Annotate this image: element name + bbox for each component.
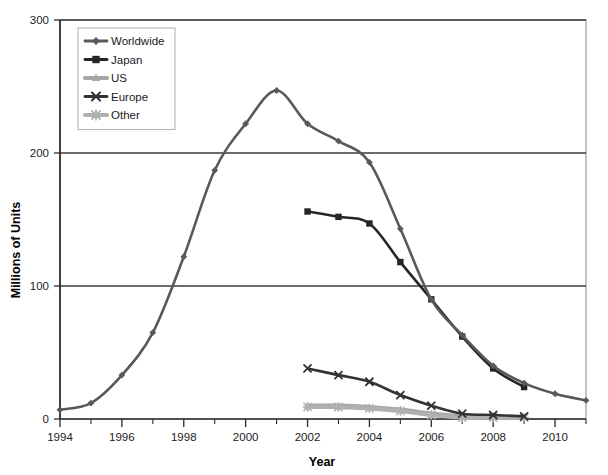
x-axis-tick-label: 2006 xyxy=(418,431,444,443)
asterisk-marker xyxy=(427,411,435,419)
asterisk-marker xyxy=(396,407,404,415)
x-axis-title: Year xyxy=(309,455,336,469)
x-axis-tick-label: 1994 xyxy=(47,431,73,443)
legend-item-label: Europe xyxy=(111,91,148,103)
legend-item-label: Worldwide xyxy=(111,35,164,47)
x-axis-tick-label: 2008 xyxy=(480,431,506,443)
square-marker xyxy=(335,214,341,220)
asterisk-marker xyxy=(91,110,101,120)
x-axis-tick-label: 2004 xyxy=(357,431,383,443)
y-axis-tick-label: 100 xyxy=(30,280,49,292)
chart-figure: 0100200300 19941996199820002002200420062… xyxy=(0,0,608,475)
x-axis-tick-label: 2002 xyxy=(295,431,321,443)
asterisk-marker xyxy=(520,414,528,422)
x-axis-tick-labels: 199419961998200020022004200620082010 xyxy=(47,431,568,443)
square-marker xyxy=(304,208,310,214)
x-axis-tick-label: 2010 xyxy=(542,431,568,443)
x-axis-tick-label: 2000 xyxy=(233,431,259,443)
legend-item-label: Japan xyxy=(111,54,142,66)
asterisk-marker xyxy=(303,403,311,411)
x-axis-tick-label: 1996 xyxy=(109,431,135,443)
y-axis-tick-label: 300 xyxy=(30,14,49,26)
square-marker xyxy=(397,259,403,265)
y-axis-tick-label: 200 xyxy=(30,147,49,159)
y-axis-title: Millions of Units xyxy=(9,202,23,299)
square-marker xyxy=(366,220,372,226)
line-chart-canvas: 0100200300 19941996199820002002200420062… xyxy=(0,0,608,475)
chart-legend: WorldwideJapanUSEuropeOther xyxy=(78,28,175,130)
square-marker xyxy=(92,56,99,63)
legend-item-label: Other xyxy=(111,109,140,121)
x-axis-tick-label: 1998 xyxy=(171,431,197,443)
legend-item-label: US xyxy=(111,72,127,84)
asterisk-marker xyxy=(334,403,342,411)
y-axis-tick-label: 0 xyxy=(43,413,49,425)
asterisk-marker xyxy=(365,404,373,412)
